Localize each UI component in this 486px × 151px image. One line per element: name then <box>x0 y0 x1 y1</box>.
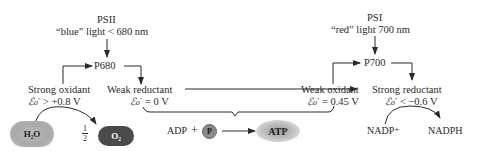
diagram-connectors <box>0 0 486 151</box>
potential-symbol: ℰ₀′ <box>385 96 397 107</box>
nadph-label: NADPH <box>428 125 462 137</box>
psi-oxidant-to-p700-arrow <box>333 63 360 84</box>
psii-reductant-label: Weak reductant <box>107 84 172 96</box>
psi-reductant-potential: ℰ₀′ < −0.6 V <box>385 96 438 108</box>
nadp-label: NADP⁺ <box>367 125 400 137</box>
p680-to-reductant-arrow <box>124 66 141 84</box>
half-coefficient: 1 2 <box>82 124 88 143</box>
psii-oxidant-potential: ℰ₀′ > +0.8 V <box>28 96 81 108</box>
h2o-molecule: H₂O <box>10 121 54 147</box>
psi-oxidant-label: Weak oxidant <box>301 84 359 96</box>
potential-symbol: ℰ₀′ <box>130 96 142 107</box>
psii-reductant-potential: ℰ₀′ = 0 V <box>130 96 169 108</box>
potential-value: < −0.6 V <box>400 96 438 107</box>
nadp-reduction-arrow <box>385 106 440 124</box>
phosphate-icon: P <box>202 124 217 139</box>
p680-label: P680 <box>94 60 116 72</box>
potential-value: = 0 V <box>145 96 169 107</box>
psi-reductant-label: Strong reductant <box>372 84 442 96</box>
psii-light-label: “blue” light < 680 nm <box>56 26 148 38</box>
potential-value: = 0.45 V <box>322 96 359 107</box>
coefficient-numerator: 1 <box>82 124 88 134</box>
plus-sign: + <box>191 124 198 136</box>
potential-symbol: ℰ₀′ <box>28 96 40 107</box>
p700-label: P700 <box>364 57 386 69</box>
potential-value: > +0.8 V <box>43 96 81 107</box>
atp-bracket <box>143 106 334 116</box>
o2-molecule: O₂ <box>98 126 134 146</box>
coefficient-denominator: 2 <box>83 134 87 143</box>
potential-symbol: ℰ₀′ <box>307 96 319 107</box>
atp-molecule: ATP <box>256 120 300 142</box>
psi-title: PSI <box>367 12 382 24</box>
psii-title: PSII <box>97 14 116 26</box>
psii-oxidant-label: Strong oxidant <box>28 84 90 96</box>
psi-light-label: “red” light 700 nm <box>331 24 410 36</box>
psi-oxidant-potential: ℰ₀′ = 0.45 V <box>307 96 359 108</box>
adp-label: ADP <box>167 125 187 137</box>
psii-oxidant-to-p680-arrow <box>63 66 92 84</box>
p700-to-reductant-arrow <box>391 63 412 80</box>
